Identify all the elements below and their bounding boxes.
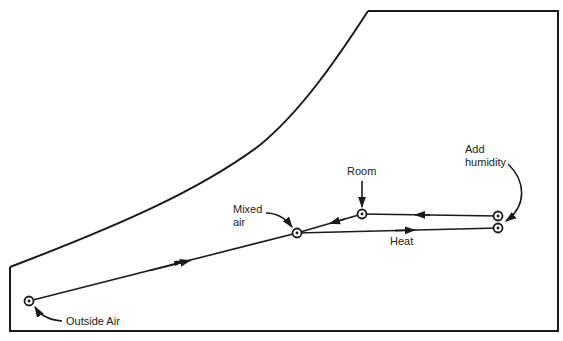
label-mixed-air-1: Mixed bbox=[233, 203, 262, 215]
point-after-heat bbox=[494, 224, 503, 233]
psychrometric-diagram: Outside Air Mixed air Room Add humidity … bbox=[0, 0, 563, 341]
label-outside-air: Outside Air bbox=[66, 315, 120, 327]
point-after-humidify bbox=[494, 212, 503, 221]
point-outside-air bbox=[25, 297, 34, 306]
point-mixed-air bbox=[293, 229, 302, 238]
process-room-to-mixed bbox=[297, 214, 362, 233]
label-heat: Heat bbox=[390, 235, 413, 247]
outside-air-callout-arrow bbox=[35, 307, 62, 321]
chart-frame bbox=[10, 11, 558, 331]
point-room bbox=[358, 210, 367, 219]
label-room: Room bbox=[347, 165, 376, 177]
process-heat bbox=[297, 228, 498, 233]
process-supply-to-room bbox=[362, 214, 498, 216]
mixed-air-callout-arrow bbox=[266, 213, 292, 227]
label-add-humidity-1: Add bbox=[465, 143, 485, 155]
label-mixed-air-2: air bbox=[233, 216, 246, 228]
label-add-humidity-2: humidity bbox=[465, 156, 506, 168]
add-humidity-callout-arrow bbox=[506, 164, 522, 221]
